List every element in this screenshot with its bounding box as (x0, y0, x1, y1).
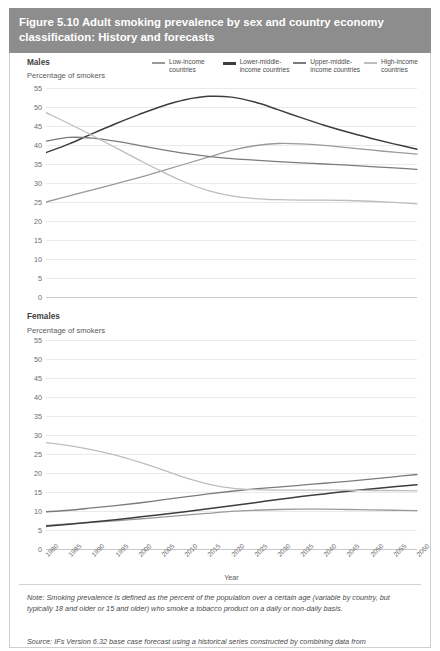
y-axis-tick-label: 30 (26, 431, 42, 440)
series-line (46, 443, 417, 491)
y-axis-tick-label: 25 (26, 450, 42, 459)
y-axis-tick-label: 15 (26, 488, 42, 497)
y-axis-tick-label: 55 (26, 336, 42, 345)
legend-item-low-income[interactable]: Low-income countries (152, 58, 222, 80)
y-axis-tick-label: 45 (26, 122, 42, 131)
y-axis-tick-label: 5 (26, 274, 42, 283)
y-axis-tick-label: 40 (26, 141, 42, 150)
figure-source: Source: IFs Version 6.32 base case forec… (27, 636, 417, 647)
legend-item-upper-middle-income[interactable]: Upper-middle-income countries (293, 58, 363, 80)
y-axis-tick-label: 55 (26, 84, 42, 93)
chart-legend: Low-income countries Lower-middle-income… (152, 58, 434, 80)
y-axis-tick-label: 30 (26, 179, 42, 188)
legend-item-high-income[interactable]: High-income countries (364, 58, 434, 80)
series-line (46, 96, 417, 152)
y-axis-tick-label: 20 (26, 217, 42, 226)
y-axis-tick-label: 0 (26, 545, 42, 554)
panel-label-females: Females (27, 312, 60, 321)
y-axis-title-females: Percentage of smokers (27, 326, 105, 335)
y-axis-tick-label: 40 (26, 393, 42, 402)
legend-swatch-upper-middle-income (293, 62, 306, 64)
legend-label-upper-middle-income: Upper-middle-income countries (310, 58, 363, 74)
chart-plot-males (46, 88, 423, 299)
y-axis-tick-label: 0 (26, 293, 42, 302)
legend-swatch-high-income (364, 62, 377, 64)
legend-label-high-income: High-income countries (381, 58, 434, 74)
y-axis-tick-label: 10 (26, 507, 42, 516)
y-axis-tick-label: 20 (26, 469, 42, 478)
legend-swatch-lower-middle-income (223, 62, 236, 65)
legend-item-lower-middle-income[interactable]: Lower-middle-income countries (223, 58, 293, 80)
y-axis-tick-label: 45 (26, 374, 42, 383)
y-axis-tick-label: 25 (26, 198, 42, 207)
y-axis-tick-label: 35 (26, 412, 42, 421)
figure-container: Figure 5.10 Adult smoking prevalence by … (0, 0, 440, 651)
figure-title: Figure 5.10 Adult smoking prevalence by … (9, 8, 431, 53)
y-axis-title-males: Percentage of smokers (27, 71, 105, 80)
chart-plot-females (46, 340, 423, 551)
figure-note: Note: Smoking prevalence is defined as t… (27, 592, 417, 615)
y-axis-tick-label: 10 (26, 255, 42, 264)
legend-label-low-income: Low-income countries (169, 58, 222, 74)
y-axis-tick-label: 50 (26, 103, 42, 112)
panel-label-males: Males (27, 58, 50, 67)
legend-label-lower-middle-income: Lower-middle-income countries (240, 58, 293, 74)
y-axis-tick-label: 15 (26, 236, 42, 245)
y-axis-tick-label: 5 (26, 526, 42, 535)
x-axis-title: Year (46, 573, 417, 582)
y-axis-tick-label: 35 (26, 160, 42, 169)
legend-swatch-low-income (152, 62, 165, 64)
footer-divider (19, 584, 421, 585)
series-line (46, 143, 417, 202)
y-axis-tick-label: 50 (26, 355, 42, 364)
